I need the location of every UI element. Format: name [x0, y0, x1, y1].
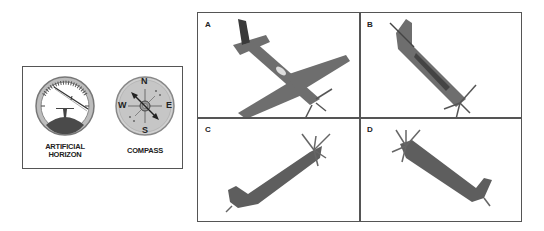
option-label: A: [205, 20, 211, 29]
compass-north: N: [141, 76, 148, 86]
compass-gauge: N S W E: [114, 75, 176, 137]
option-a[interactable]: A: [198, 13, 359, 117]
option-label: B: [367, 20, 373, 29]
artificial-horizon-label: ARTIFICIAL HORIZON: [35, 143, 95, 159]
airplane-d-icon: [360, 118, 521, 222]
compass-south: S: [142, 125, 148, 135]
artificial-horizon-icon: [34, 75, 96, 137]
option-label: C: [205, 125, 211, 134]
label-line-2: HORIZON: [35, 151, 95, 159]
compass-label: COMPASS: [115, 147, 175, 155]
airplane-a-icon: [198, 13, 359, 117]
option-d[interactable]: D: [360, 118, 523, 222]
answer-options-grid: A B C: [197, 12, 522, 222]
compass-west: W: [118, 100, 127, 110]
option-label: D: [367, 125, 373, 134]
airplane-c-icon: [198, 118, 359, 222]
airplane-b-icon: [360, 13, 521, 117]
option-b[interactable]: B: [360, 13, 523, 117]
instrument-panel: ARTIFICIAL HORIZON N S W E COMPASS: [22, 66, 183, 169]
artificial-horizon-gauge: [34, 75, 96, 137]
compass-east: E: [166, 100, 172, 110]
option-c[interactable]: C: [198, 118, 359, 222]
